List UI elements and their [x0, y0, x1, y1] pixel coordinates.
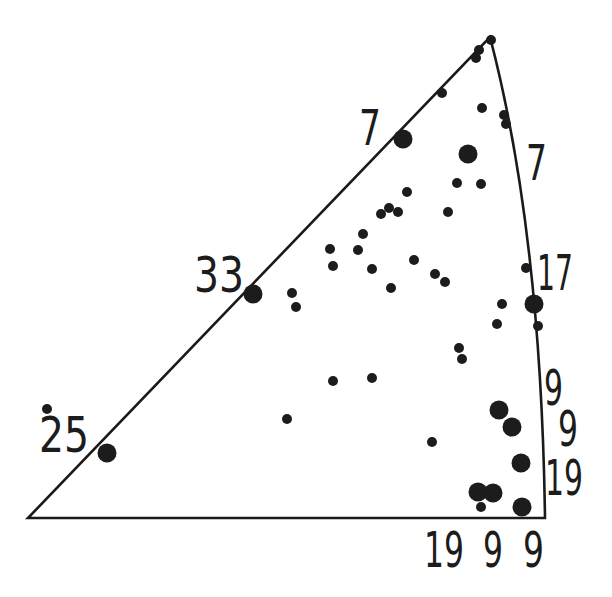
small-data-point: [325, 244, 335, 254]
small-data-point: [367, 373, 377, 383]
small-data-point: [457, 354, 467, 364]
small-data-point: [393, 207, 403, 217]
small-data-point: [440, 277, 450, 287]
small-data-point: [367, 264, 377, 274]
small-data-point: [437, 88, 447, 98]
small-data-point: [499, 110, 509, 120]
label-left-edge-33: 33: [194, 246, 244, 304]
large-data-point: [459, 145, 478, 164]
small-data-point: [497, 299, 507, 309]
small-data-point: [471, 53, 481, 63]
small-data-point: [402, 187, 412, 197]
small-data-point: [452, 178, 462, 188]
large-data-point: [244, 285, 263, 304]
small-data-point: [291, 302, 301, 312]
small-data-point: [486, 35, 496, 45]
pole-figure-triangle: 7733172599191999: [0, 0, 612, 597]
large-data-point: [490, 401, 509, 420]
label-bottom-19: 19: [424, 521, 464, 579]
large-data-point: [513, 498, 532, 517]
label-bottom-9a: 9: [483, 521, 503, 579]
label-right-edge-19: 19: [545, 449, 583, 507]
small-data-point: [358, 229, 368, 239]
small-data-point: [287, 288, 297, 298]
large-data-point: [512, 454, 531, 473]
small-data-point: [454, 343, 464, 353]
edge-labels: 7733172599191999: [39, 99, 583, 579]
small-data-point: [328, 261, 338, 271]
small-data-point: [477, 103, 487, 113]
small-data-point: [282, 414, 292, 424]
small-data-point: [353, 245, 363, 255]
small-data-point: [384, 203, 394, 213]
label-right-edge-7: 7: [526, 134, 547, 192]
small-data-point: [386, 283, 396, 293]
small-data-point: [476, 179, 486, 189]
small-data-point: [443, 207, 453, 217]
label-bottom-9b: 9: [523, 521, 544, 579]
label-right-edge-17: 17: [537, 244, 573, 302]
large-data-point: [503, 418, 522, 437]
label-left-edge-7: 7: [359, 99, 381, 157]
small-data-point: [533, 321, 543, 331]
small-data-point: [430, 269, 440, 279]
large-data-point: [394, 130, 413, 149]
data-points: [42, 35, 544, 517]
large-data-point: [484, 484, 503, 503]
small-data-point: [501, 119, 511, 129]
label-left-edge-25: 25: [39, 406, 89, 464]
small-data-point: [476, 502, 486, 512]
small-data-point: [427, 437, 437, 447]
small-data-point: [409, 255, 419, 265]
large-data-point: [98, 444, 117, 463]
small-data-point: [376, 209, 386, 219]
small-data-point: [328, 376, 338, 386]
small-data-point: [492, 319, 502, 329]
small-data-point: [521, 263, 531, 273]
